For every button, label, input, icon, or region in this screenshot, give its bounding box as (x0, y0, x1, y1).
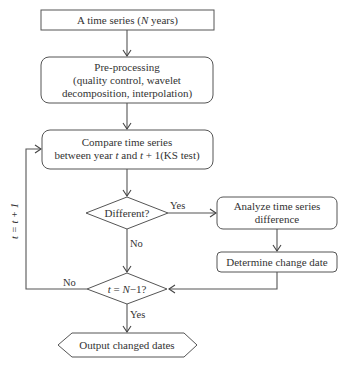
node-output-label: Output changed dates (79, 339, 174, 351)
node-determine-label: Determine change date (226, 256, 328, 268)
node-preprocess: Pre-processing (quality control, wavelet… (41, 57, 213, 103)
edge-label-no-last: No (63, 277, 76, 288)
edge-loop-back-to-compare (26, 149, 87, 289)
node-preprocess-line2: (quality control, wavelet (73, 74, 181, 87)
node-last-year-label: t = N−1? (108, 283, 147, 295)
edge-label-no-different: No (130, 238, 143, 249)
node-preprocess-line3: decomposition, interpolation) (62, 87, 192, 100)
edge-determine-to-last-year (169, 272, 277, 289)
node-compare-line1: Compare time series (82, 136, 172, 148)
node-output: Output changed dates (58, 333, 197, 357)
edge-label-loop: t = t + 1 (9, 203, 20, 239)
edge-label-yes-last: Yes (130, 309, 145, 320)
flowchart: A time series (N years) Pre-processing (… (0, 0, 351, 371)
edge-label-yes-different: Yes (170, 200, 185, 211)
node-start-label: A time series (N years) (77, 14, 178, 27)
node-preprocess-line1: Pre-processing (94, 61, 160, 73)
node-compare: Compare time series between year t and t… (42, 130, 213, 169)
node-compare-line2: between year t and t + 1(KS test) (54, 149, 200, 162)
node-analyze: Analyze time series difference (217, 197, 337, 229)
node-determine: Determine change date (217, 252, 337, 272)
node-last-year: t = N−1? (87, 273, 167, 304)
node-different: Different? (86, 197, 168, 229)
node-different-label: Different? (105, 207, 150, 219)
node-analyze-line1: Analyze time series (234, 200, 321, 212)
node-start: A time series (N years) (41, 10, 214, 30)
node-analyze-line2: difference (255, 213, 299, 225)
